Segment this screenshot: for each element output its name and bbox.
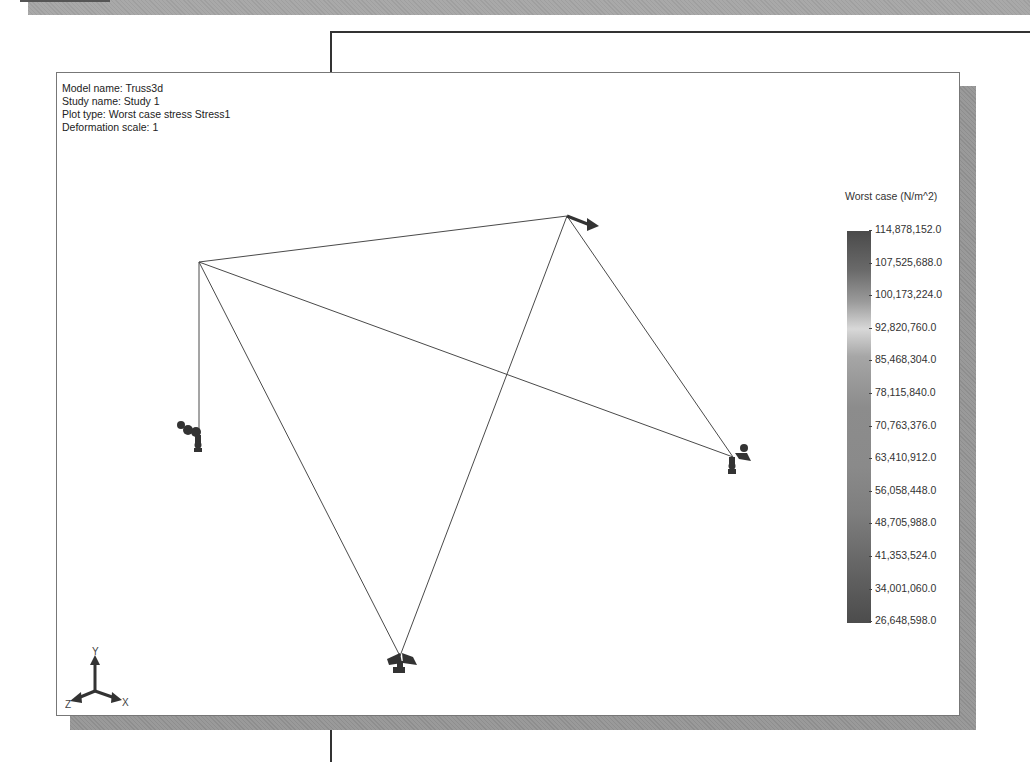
- axis-x-label: X: [122, 697, 129, 708]
- fixture-icon-bottom: [387, 653, 417, 673]
- top-band-edge: [20, 0, 110, 2]
- top-toolbar-band: [28, 0, 1030, 15]
- legend-value: 70,763,376.0: [875, 419, 936, 431]
- legend-value: 48,705,988.0: [875, 516, 936, 528]
- legend-value: 85,468,304.0: [875, 353, 936, 365]
- truss-members: [199, 216, 733, 656]
- fixture-icon-right: [728, 444, 751, 474]
- legend-value: 78,115,840.0: [875, 386, 936, 398]
- stress-color-scale-bar: [847, 231, 871, 623]
- truss-model-view[interactable]: [57, 73, 961, 717]
- legend-value: 92,820,760.0: [875, 321, 936, 333]
- member-diagonal-long: [199, 262, 733, 457]
- legend-value: 114,878,152.0: [875, 223, 941, 235]
- coordinate-triad-icon: Y X Z: [65, 647, 135, 709]
- legend-value: 56,058,448.0: [875, 484, 936, 496]
- legend-value: 100,173,224.0: [875, 288, 942, 300]
- legend-value: 34,001,060.0: [875, 582, 936, 594]
- member-top: [199, 216, 567, 262]
- member-top-to-bottom: [400, 216, 567, 656]
- member-top-to-right: [567, 216, 733, 457]
- axis-z-label: Z: [65, 699, 71, 709]
- axis-y-label: Y: [92, 647, 99, 657]
- member-left-to-bottom: [199, 262, 400, 656]
- legend-value: 63,410,912.0: [875, 451, 936, 463]
- legend-value: 107,525,688.0: [875, 256, 942, 268]
- stress-plot-window[interactable]: Model name: Truss3d Study name: Study 1 …: [56, 72, 960, 716]
- legend-value: 26,648,598.0: [875, 614, 936, 626]
- legend-title: Worst case (N/m^2): [845, 190, 937, 202]
- background-frame-edge: [330, 31, 1030, 33]
- legend-value: 41,353,524.0: [875, 549, 936, 561]
- background-frame-edge-left: [330, 31, 332, 73]
- fixture-icon-left: [177, 421, 202, 452]
